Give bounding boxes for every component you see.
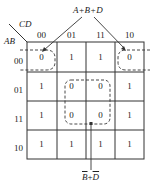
cell-r2c2: 0: [86, 101, 115, 130]
cell-r1c1: 0: [57, 72, 86, 101]
col-header-11: 11: [86, 30, 115, 40]
cell-r1c3: 1: [115, 72, 144, 101]
cell-r3c1: 1: [57, 130, 86, 159]
row-header-11: 11: [3, 114, 23, 124]
col-header-01: 01: [57, 30, 86, 40]
center-group-label: B+D: [82, 172, 99, 182]
cell-r3c3: 1: [115, 130, 144, 159]
cell-r0c1: 1: [57, 43, 86, 72]
row-var-label: AB: [4, 36, 15, 46]
col-header-00: 00: [27, 30, 56, 40]
col-header-10: 10: [115, 30, 144, 40]
cell-r2c3: 1: [115, 101, 144, 130]
row-header-00: 00: [3, 56, 23, 66]
row-header-10: 10: [3, 143, 23, 153]
cell-r0c0: 0: [27, 43, 56, 72]
cell-r2c0: 1: [27, 101, 56, 130]
cell-r3c0: 1: [27, 130, 56, 159]
cell-r1c2: 0: [86, 72, 115, 101]
top-group-label: A+B+D: [73, 5, 103, 15]
cell-r0c3: 0: [115, 43, 144, 72]
row-header-01: 01: [3, 85, 23, 95]
cell-r1c0: 1: [27, 72, 56, 101]
center-group-label-d: D: [93, 172, 100, 182]
col-var-label: CD: [19, 19, 32, 29]
cell-r0c2: 1: [86, 43, 115, 72]
cell-r2c1: 0: [57, 101, 86, 130]
cell-r3c2: 1: [86, 130, 115, 159]
